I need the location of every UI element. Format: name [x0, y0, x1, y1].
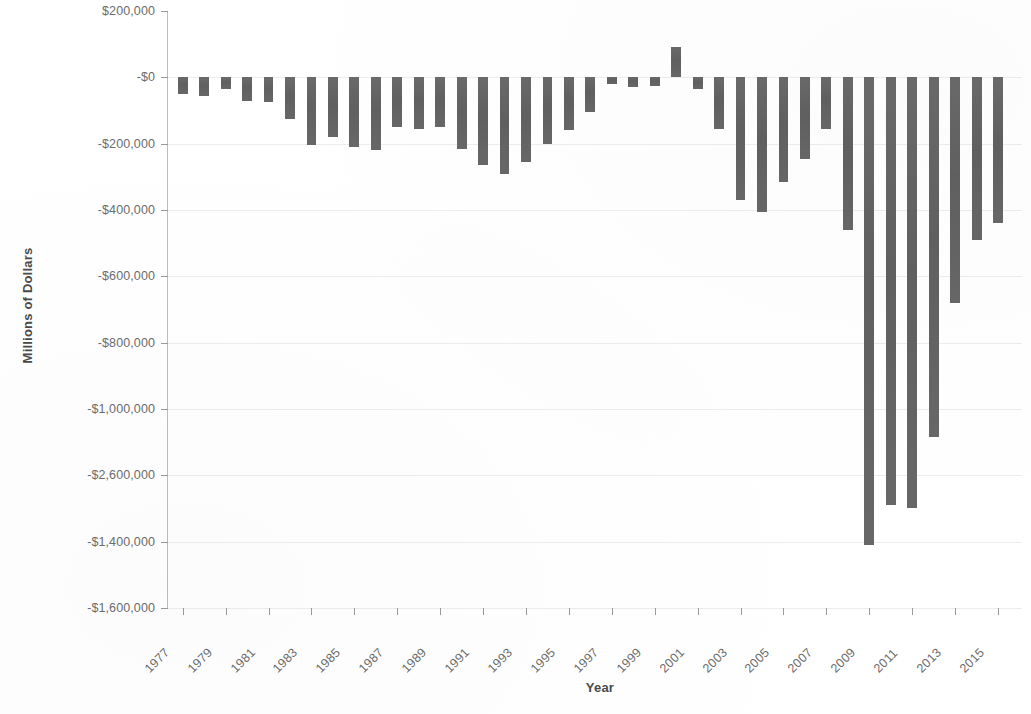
bar [864, 77, 874, 545]
x-axis-tick [955, 608, 956, 615]
y-axis-tick [161, 475, 168, 476]
x-axis-tick-label: 2011 [871, 646, 900, 675]
x-axis-tick [655, 608, 656, 615]
x-axis-tick [612, 608, 613, 615]
bar [221, 77, 231, 89]
x-axis-tick [526, 608, 527, 615]
x-axis-tick [354, 608, 355, 615]
bar [950, 77, 960, 303]
x-axis-tick [483, 608, 484, 615]
y-axis-tick [161, 77, 168, 78]
x-axis-tick-label: 1999 [614, 645, 644, 675]
x-axis-tick-label: 2007 [785, 645, 815, 675]
x-axis-tick [912, 608, 913, 615]
bar [457, 77, 467, 148]
x-axis-tick-label: 1997 [571, 645, 601, 675]
x-axis-tick [826, 608, 827, 615]
bar [821, 77, 831, 128]
x-axis-tick-label: 1991 [442, 645, 472, 675]
x-axis-tick-label: 2015 [957, 645, 987, 675]
bar [779, 77, 789, 181]
bar [736, 77, 746, 200]
bar [993, 77, 1003, 223]
bar [607, 77, 617, 84]
x-axis-tick [741, 608, 742, 615]
bar [628, 77, 638, 87]
x-axis-tick [869, 608, 870, 615]
bar [757, 77, 767, 211]
x-axis-tick [269, 608, 270, 615]
bar [564, 77, 574, 130]
gridline [168, 542, 1022, 543]
y-axis-tick [161, 144, 168, 145]
y-axis-tick [161, 210, 168, 211]
x-axis-tick-label: 1981 [228, 645, 258, 675]
bar [671, 47, 681, 77]
x-axis-tick-label: 1977 [142, 645, 172, 675]
y-axis-tick [161, 343, 168, 344]
plot-area: $200,000-$0-$200,000-$400,000-$600,000-$… [167, 11, 1022, 608]
bar [886, 77, 896, 505]
bar [478, 77, 488, 165]
x-axis-tick [569, 608, 570, 615]
bar [693, 77, 703, 89]
bar [392, 77, 402, 127]
bar [285, 77, 295, 118]
bar [907, 77, 917, 508]
x-axis-tick-label: 2001 [657, 645, 687, 675]
bar [521, 77, 531, 162]
bar [714, 77, 724, 128]
bar [650, 77, 660, 85]
x-axis-tick [998, 608, 999, 615]
x-axis-tick-label: 1983 [270, 645, 300, 675]
x-axis-title: Year [510, 680, 690, 695]
y-axis-tick [161, 11, 168, 12]
x-axis-tick-label: 1987 [356, 645, 386, 675]
bar [543, 77, 553, 143]
x-axis-tick-label: 1985 [313, 645, 343, 675]
x-axis-tick [183, 608, 184, 615]
bar [414, 77, 424, 128]
x-axis-tick-label: 1979 [185, 645, 215, 675]
bar [264, 77, 274, 102]
x-axis-tick [783, 608, 784, 615]
bar [435, 77, 445, 127]
x-axis-tick-label: 2013 [914, 645, 944, 675]
bar [199, 77, 209, 95]
x-axis-tick-label: 1989 [399, 645, 429, 675]
bar [929, 77, 939, 437]
bar [585, 77, 595, 112]
x-axis-tick-label: 2009 [828, 645, 858, 675]
x-axis-tick-label: 2003 [700, 645, 730, 675]
bar [242, 77, 252, 100]
y-axis-title: Millions of Dollars [20, 216, 35, 396]
bar [178, 77, 188, 94]
x-axis-tick [397, 608, 398, 615]
x-axis-tick [440, 608, 441, 615]
x-axis-tick-label: 2005 [742, 645, 772, 675]
x-axis-tick [311, 608, 312, 615]
bar [500, 77, 510, 173]
x-axis-tick [698, 608, 699, 615]
bar [800, 77, 810, 158]
y-axis-line [167, 11, 168, 608]
bar-chart: Millions of Dollars Year $200,000-$0-$20… [0, 0, 1031, 714]
bar [307, 77, 317, 145]
x-axis-tick [226, 608, 227, 615]
y-axis-tick [161, 409, 168, 410]
y-axis-tick [161, 608, 168, 609]
bar [371, 77, 381, 150]
x-axis-tick-label: 1995 [528, 645, 558, 675]
bar [349, 77, 359, 147]
bar [328, 77, 338, 137]
y-axis-tick [161, 542, 168, 543]
x-axis-tick-label: 1993 [485, 645, 515, 675]
bar [972, 77, 982, 240]
gridline [168, 608, 1022, 609]
y-axis-tick [161, 276, 168, 277]
bar [843, 77, 853, 230]
